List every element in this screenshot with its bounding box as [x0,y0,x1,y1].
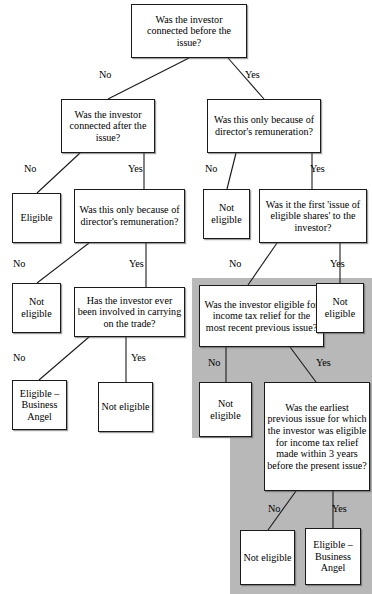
node-label: Eligible – Business Angel [308,539,358,574]
edge-label-text: Yes [332,503,347,514]
connector-q4-no [37,243,89,283]
node-q4-directors-remuneration[interactable]: Was this only because of director's remu… [74,189,185,243]
edge-label-text: Yes [131,352,146,363]
edge-label-text: No [268,503,280,514]
node-label: Has the investor ever been involved in c… [77,295,182,330]
connector-q2-no [37,153,80,193]
edge-label-text: Yes [129,258,144,269]
node-outcome-not-eligible-a[interactable]: Not eligible [203,189,250,239]
node-outcome-not-eligible-b[interactable]: Not eligible [12,283,61,333]
edge-label-q3-yes: Yes [310,163,325,174]
edge-label-q6-no: No [13,352,25,363]
node-label: Not eligible [202,398,249,421]
node-outcome-not-eligible-d[interactable]: Not eligible [98,382,153,432]
decision-tree-diagram: Was the investor connected before the is… [0,0,372,594]
node-label: Was the investor connected before the is… [134,14,244,49]
connector-q3-no [227,153,236,189]
node-outcome-eligible-business-angel-b[interactable]: Eligible – Business Angel [305,528,361,585]
edge-label-text: No [24,163,36,174]
edge-label-text: Yes [245,69,260,80]
edge-label-q3-no: No [205,163,217,174]
connector-q1-no [108,58,189,99]
node-label: Eligible – Business Angel [15,388,64,423]
node-q7-eligible-income-tax-relief-recent[interactable]: Was the investor eligible for income tax… [199,285,324,347]
edge-label-text: No [229,258,241,269]
edge-label-q6-yes: Yes [131,352,146,363]
node-label: Was it the first 'issue of eligible shar… [262,199,364,234]
edge-label-text: No [208,357,220,368]
node-label: Was the investor connected after the iss… [64,109,152,144]
node-label: Was the investor eligible for income tax… [202,299,321,334]
edge-label-text: Yes [316,357,331,368]
node-label: Was this only because of director's remu… [210,114,318,137]
connector-q6-no [39,337,89,380]
edge-label-text: No [99,69,111,80]
edge-label-q1-no: No [99,69,111,80]
node-outcome-not-eligible-e[interactable]: Not eligible [199,382,252,437]
edge-label-text: No [205,163,217,174]
node-label: Not eligible [101,401,150,413]
node-outcome-not-eligible-f[interactable]: Not eligible [240,530,295,585]
node-q8-earliest-previous-issue-within-3-years[interactable]: Was the earliest previous issue for whic… [264,382,370,491]
node-label: Was this only because of director's remu… [77,204,182,227]
node-outcome-eligible-business-angel-a[interactable]: Eligible – Business Angel [12,380,67,430]
edge-label-text: Yes [310,163,325,174]
edge-label-q4-no: No [13,258,25,269]
node-outcome-eligible[interactable]: Eligible [12,193,61,243]
edge-label-text: No [13,258,25,269]
node-outcome-not-eligible-c[interactable]: Not eligible [316,283,364,333]
node-label: Not eligible [15,296,58,319]
node-label: Eligible [15,212,58,224]
edge-label-q1-yes: Yes [245,69,260,80]
edge-label-q2-yes: Yes [128,163,143,174]
edge-label-q8-no: No [268,503,280,514]
node-q1-connected-before-issue[interactable]: Was the investor connected before the is… [131,4,247,58]
node-q5-first-issue-eligible-shares[interactable]: Was it the first 'issue of eligible shar… [259,189,367,243]
edge-label-q4-yes: Yes [129,258,144,269]
node-q3-directors-remuneration[interactable]: Was this only because of director's remu… [207,99,321,153]
edge-label-q5-yes: Yes [330,258,345,269]
edge-label-q7-no: No [208,357,220,368]
edge-label-q5-no: No [229,258,241,269]
node-label: Was the earliest previous issue for whic… [267,402,367,472]
edge-label-q8-yes: Yes [332,503,347,514]
edge-label-text: No [13,352,25,363]
node-label: Not eligible [319,296,361,319]
edge-label-text: Yes [128,163,143,174]
edge-label-q7-yes: Yes [316,357,331,368]
edge-label-text: Yes [330,258,345,269]
node-label: Not eligible [206,202,247,225]
edge-label-q2-no: No [24,163,36,174]
node-label: Not eligible [243,552,292,564]
node-q6-involved-carrying-on-trade[interactable]: Has the investor ever been involved in c… [74,287,185,337]
node-q2-connected-after-issue[interactable]: Was the investor connected after the iss… [61,99,155,153]
